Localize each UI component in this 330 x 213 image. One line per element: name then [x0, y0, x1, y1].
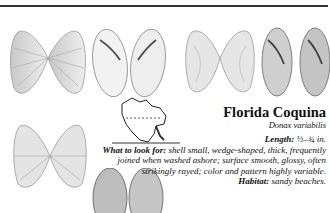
- shell-pair-rayed-bottom-left: [10, 120, 90, 192]
- species-common-name: Florida Coquina: [223, 104, 326, 121]
- habitat-text: sandy beaches.: [269, 176, 326, 186]
- shell-pair-rayed-top-right: [182, 26, 258, 98]
- habitat-label: Habitat:: [238, 176, 269, 186]
- habitat-line: Habitat: sandy beaches.: [96, 176, 326, 187]
- what-to-look-for-label: What to look for:: [103, 145, 167, 155]
- shell-pair-rayed-top-left: [8, 28, 88, 100]
- species-description: Length: ½–¾ in. What to look for: shell …: [96, 134, 326, 187]
- shell-pair-interior-top-far-right: [260, 24, 330, 100]
- shell-pair-interior-top-center: [90, 26, 168, 100]
- what-to-look-for-line: What to look for: shell small, wedge-sha…: [96, 145, 326, 177]
- length-label: Length:: [265, 134, 295, 144]
- species-scientific-name: Donax variabilis: [269, 120, 326, 130]
- header-rule: [0, 5, 328, 7]
- length-line: Length: ½–¾ in.: [96, 134, 326, 145]
- length-value: ½–¾ in.: [294, 134, 326, 144]
